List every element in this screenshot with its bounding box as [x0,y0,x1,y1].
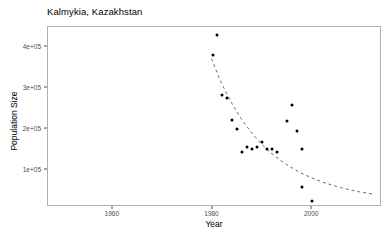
x-tick-mark [211,206,212,209]
y-axis-ticks: 1e+052e+053e+054e+05 [0,0,41,236]
y-tick-mark [44,127,47,128]
x-tick-label: 1980 [204,210,218,217]
data-point [216,34,219,37]
y-tick-mark [44,45,47,46]
y-tick-label: 4e+05 [23,42,41,49]
data-point [221,94,224,97]
data-point [276,151,279,154]
data-point [251,148,254,151]
data-point [211,53,214,56]
data-point [246,146,249,149]
x-tick-label: 2000 [304,210,318,217]
y-tick-label: 3e+05 [23,83,41,90]
data-point [296,129,299,132]
y-axis-label: Population Size [9,71,19,171]
data-point [256,145,259,148]
data-point [311,199,314,202]
data-point [261,141,264,144]
plot-panel [47,26,381,206]
y-tick-label: 2e+05 [23,124,41,131]
scatter-points [48,27,380,205]
x-tick-label: 1960 [105,210,119,217]
data-point [236,127,239,130]
x-tick-mark [311,206,312,209]
y-tick-label: 1e+05 [23,166,41,173]
page-title: Kalmykia, Kazakhstan [47,6,142,17]
x-tick-mark [111,206,112,209]
data-point [226,97,229,100]
data-point [241,151,244,154]
x-axis-label: Year [47,219,381,229]
data-point [301,186,304,189]
chart-container: Kalmykia, Kazakhstan 1e+052e+053e+054e+0… [0,0,392,236]
data-point [266,147,269,150]
data-point [231,118,234,121]
data-point [286,119,289,122]
y-tick-mark [44,169,47,170]
data-point [291,104,294,107]
data-point [271,148,274,151]
data-point [301,148,304,151]
y-tick-mark [44,86,47,87]
